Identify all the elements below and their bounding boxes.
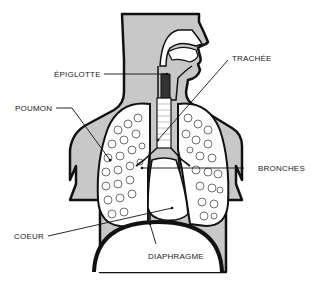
label-trachee: TRACHÉE — [232, 54, 272, 63]
respiratory-diagram — [0, 0, 314, 293]
label-epiglotte: ÉPIGLOTTE — [54, 70, 101, 79]
label-bronches: BRONCHES — [258, 164, 305, 173]
mouth-cavity — [168, 47, 198, 62]
larynx — [161, 74, 170, 100]
label-poumon: POUMON — [15, 104, 52, 113]
label-coeur: COEUR — [14, 232, 44, 241]
label-diaphragme: DIAPHRAGME — [148, 252, 204, 261]
